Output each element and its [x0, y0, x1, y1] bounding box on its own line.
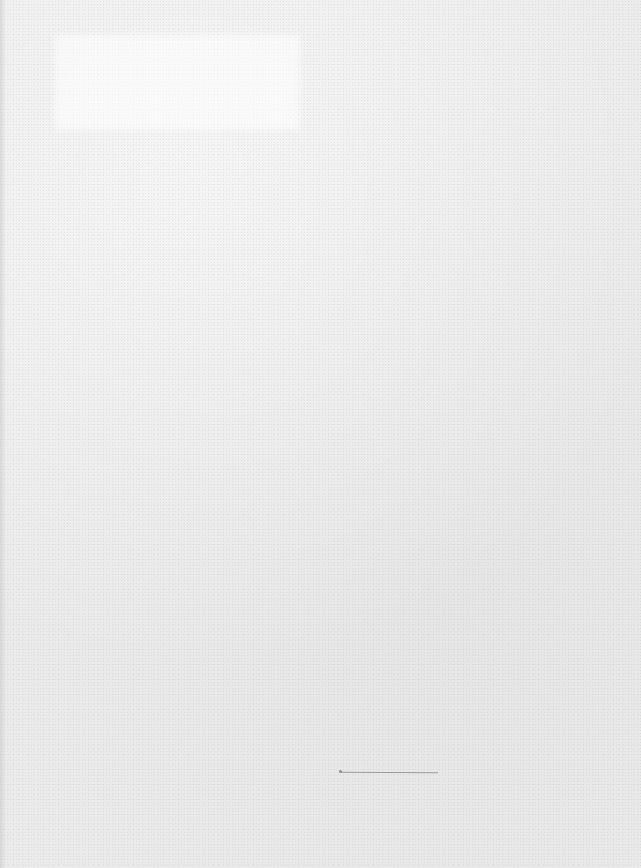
light-patch-region [55, 35, 300, 130]
signature-line [340, 772, 438, 774]
scanned-page [0, 0, 641, 868]
page-edge-shadow [0, 0, 6, 868]
